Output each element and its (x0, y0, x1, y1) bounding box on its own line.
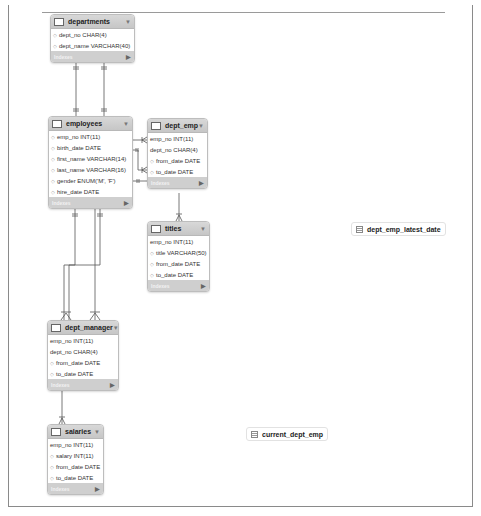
table-header[interactable]: employees ▼ (49, 117, 132, 131)
column-row[interactable]: ◇emp_no INT(11) (49, 131, 132, 142)
table-salaries[interactable]: salaries ▼ emp_no INT(11) ◇salary INT(11… (47, 424, 104, 495)
collapse-icon[interactable]: ▼ (94, 429, 100, 435)
table-icon (151, 122, 161, 130)
table-header[interactable]: departments ▼ (51, 15, 134, 29)
column-icon: ◇ (51, 145, 56, 151)
column-icon: ◇ (53, 43, 58, 49)
column-label: from_date DATE (156, 158, 200, 164)
view-name: dept_emp_latest_date (367, 226, 441, 233)
view-dept-emp-latest-date[interactable]: dept_emp_latest_date (351, 222, 446, 236)
column-label: from_date DATE (56, 464, 100, 470)
column-row[interactable]: ◇birth_date DATE (49, 142, 132, 153)
indexes-footer[interactable]: Indexes▶ (49, 197, 132, 208)
column-label: dept_no CHAR(4) (59, 32, 107, 38)
indexes-label: Indexes (52, 200, 124, 206)
indexes-footer[interactable]: Indexes▶ (148, 177, 207, 188)
collapse-icon[interactable]: ▼ (123, 121, 129, 127)
table-icon (151, 225, 161, 233)
column-icon: ◇ (150, 169, 155, 175)
column-label: to_date DATE (156, 272, 193, 278)
table-name: dept_emp (165, 122, 198, 129)
collapse-icon[interactable]: ▼ (200, 226, 206, 232)
column-row[interactable]: ◇to_date DATE (48, 368, 118, 379)
column-row[interactable]: dept_no CHAR(4) (148, 144, 207, 155)
collapse-icon[interactable]: ▼ (125, 19, 131, 25)
column-label: title VARCHAR(50) (156, 250, 207, 256)
expand-icon[interactable]: ▶ (126, 53, 131, 60)
column-label: from_date DATE (56, 360, 100, 366)
column-row[interactable]: ◇hire_date DATE (49, 186, 132, 197)
column-label: emp_no INT(11) (57, 134, 100, 140)
indexes-footer[interactable]: Indexes▶ (48, 483, 103, 494)
column-icon: ◇ (50, 371, 55, 377)
expand-icon[interactable]: ▶ (201, 282, 206, 289)
column-icon: ◇ (50, 475, 55, 481)
column-icon: ◇ (150, 250, 155, 256)
column-icon: ◇ (150, 261, 155, 267)
table-name: departments (68, 18, 125, 25)
column-row[interactable]: ◇first_name VARCHAR(14) (49, 153, 132, 164)
column-icon: ◇ (51, 156, 56, 162)
column-icon: ◇ (51, 167, 56, 173)
expand-icon[interactable]: ▶ (110, 381, 115, 388)
table-header[interactable]: salaries ▼ (48, 425, 103, 439)
expand-icon[interactable]: ▶ (124, 199, 129, 206)
column-row[interactable]: ◇last_name VARCHAR(16) (49, 164, 132, 175)
column-row[interactable]: dept_no CHAR(4) (48, 346, 118, 357)
column-icon: ◇ (53, 32, 58, 38)
column-row[interactable]: ◇from_date DATE (48, 357, 118, 368)
column-icon: ◇ (50, 453, 55, 459)
view-current-dept-emp[interactable]: current_dept_emp (246, 427, 328, 441)
column-row[interactable]: ◇gender ENUM('M', 'F') (49, 175, 132, 186)
column-icon: ◇ (150, 272, 155, 278)
column-row[interactable]: emp_no INT(11) (148, 133, 207, 144)
column-icon: ◇ (51, 189, 56, 195)
column-label: dept_name VARCHAR(40) (59, 43, 130, 49)
indexes-footer[interactable]: Indexes▶ (148, 280, 209, 291)
table-header[interactable]: titles ▼ (148, 222, 209, 236)
column-row[interactable]: ◇from_date DATE (148, 258, 209, 269)
table-departments[interactable]: departments ▼ ◇dept_no CHAR(4) ◇dept_nam… (50, 14, 135, 63)
column-label: emp_no INT(11) (50, 338, 93, 344)
table-employees[interactable]: employees ▼ ◇emp_no INT(11) ◇birth_date … (48, 116, 133, 209)
indexes-label: Indexes (151, 283, 201, 289)
column-icon: ◇ (51, 134, 56, 140)
column-icon: ◇ (50, 360, 55, 366)
column-icon: ◇ (51, 178, 56, 184)
column-label: to_date DATE (156, 169, 193, 175)
column-row[interactable]: ◇to_date DATE (148, 166, 207, 177)
table-name: dept_manager (65, 324, 113, 331)
collapse-icon[interactable]: ▼ (198, 123, 204, 129)
column-row[interactable]: emp_no INT(11) (148, 236, 209, 247)
expand-icon[interactable]: ▶ (199, 179, 204, 186)
column-row[interactable]: ◇from_date DATE (148, 155, 207, 166)
column-row[interactable]: ◇to_date DATE (48, 472, 103, 483)
table-header[interactable]: dept_manager ▼ (48, 321, 118, 335)
table-dept-manager[interactable]: dept_manager ▼ emp_no INT(11) dept_no CH… (47, 320, 119, 391)
column-row[interactable]: emp_no INT(11) (48, 439, 103, 450)
column-label: last_name VARCHAR(16) (57, 167, 126, 173)
indexes-footer[interactable]: Indexes▶ (51, 51, 134, 62)
column-row[interactable]: ◇dept_no CHAR(4) (51, 29, 134, 40)
table-titles[interactable]: titles ▼ emp_no INT(11) ◇title VARCHAR(5… (147, 221, 210, 292)
indexes-label: Indexes (151, 180, 199, 186)
table-icon (51, 428, 61, 436)
column-row[interactable]: emp_no INT(11) (48, 335, 118, 346)
table-name: employees (66, 120, 123, 127)
expand-icon[interactable]: ▶ (95, 485, 100, 492)
column-row[interactable]: ◇salary INT(11) (48, 450, 103, 461)
indexes-footer[interactable]: Indexes▶ (48, 379, 118, 390)
view-icon (356, 226, 363, 233)
column-label: to_date DATE (56, 475, 93, 481)
column-row[interactable]: ◇title VARCHAR(50) (148, 247, 209, 258)
column-row[interactable]: ◇to_date DATE (148, 269, 209, 280)
collapse-icon[interactable]: ▼ (113, 325, 119, 331)
table-name: salaries (65, 428, 94, 435)
column-row[interactable]: ◇dept_name VARCHAR(40) (51, 40, 134, 51)
table-dept-emp[interactable]: dept_emp ▼ emp_no INT(11) dept_no CHAR(4… (147, 118, 208, 189)
column-label: first_name VARCHAR(14) (57, 156, 126, 162)
column-row[interactable]: ◇from_date DATE (48, 461, 103, 472)
indexes-label: Indexes (54, 54, 126, 60)
indexes-label: Indexes (51, 382, 110, 388)
table-header[interactable]: dept_emp ▼ (148, 119, 207, 133)
